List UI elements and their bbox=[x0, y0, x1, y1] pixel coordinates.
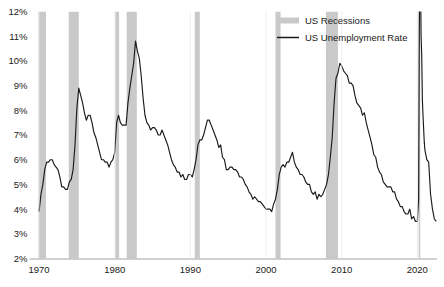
y-axis-tick-label: 10% bbox=[8, 55, 28, 66]
y-axis-tick-label: 11% bbox=[9, 31, 28, 42]
legend-label: US Recessions bbox=[305, 15, 370, 26]
x-axis-tick-label: 1990 bbox=[180, 264, 201, 275]
x-axis-tick-label: 2020 bbox=[407, 264, 428, 275]
x-axis-tick-labels: 197019801990200020102020 bbox=[28, 12, 427, 275]
x-axis-tick-label: 1970 bbox=[28, 264, 49, 275]
legend-swatch-recessions bbox=[277, 18, 299, 24]
y-axis-tick-labels: 2%3%4%5%6%7%8%9%10%11%12% bbox=[8, 6, 28, 264]
chart-canvas: 2%3%4%5%6%7%8%9%10%11%12% 19701980199020… bbox=[0, 0, 444, 287]
recession-band bbox=[38, 12, 46, 259]
y-axis-tick-label: 2% bbox=[14, 253, 28, 264]
y-axis-tick-label: 5% bbox=[14, 179, 28, 190]
y-axis-tick-label: 8% bbox=[14, 105, 28, 116]
legend-label: US Unemployment Rate bbox=[305, 32, 407, 43]
unemployment-chart: 2%3%4%5%6%7%8%9%10%11%12% 19701980199020… bbox=[0, 0, 444, 287]
y-axis-tick-label: 6% bbox=[14, 154, 28, 165]
chart-legend: US RecessionsUS Unemployment Rate bbox=[277, 15, 407, 43]
recession-bands bbox=[38, 12, 420, 259]
recession-band bbox=[275, 12, 280, 259]
x-axis-tick-label: 2000 bbox=[255, 264, 276, 275]
x-axis-tick-label: 2010 bbox=[331, 264, 352, 275]
recession-band bbox=[69, 12, 79, 259]
y-axis-tick-label: 12% bbox=[8, 6, 28, 17]
x-axis-tick-label: 1980 bbox=[104, 264, 125, 275]
y-axis-tick-label: 4% bbox=[14, 204, 28, 215]
y-axis-tick-label: 3% bbox=[14, 228, 28, 239]
y-axis-tick-label: 9% bbox=[14, 80, 28, 91]
recession-band bbox=[195, 12, 200, 259]
y-axis-tick-label: 7% bbox=[14, 129, 28, 140]
